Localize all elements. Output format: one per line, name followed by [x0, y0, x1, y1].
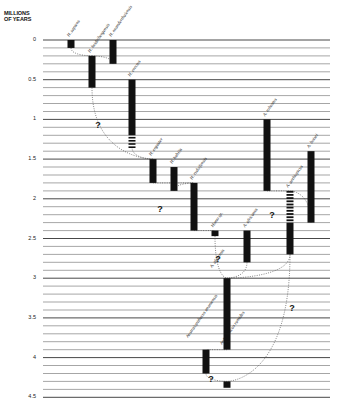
- species-bar-erectus: [129, 80, 136, 148]
- question-mark: ?: [208, 374, 214, 384]
- species-label-boisei: A. boisei: [305, 132, 319, 149]
- species-label-ramidus: Ardipithecus ramidus: [218, 310, 245, 346]
- species-bar-anamensis: [203, 350, 210, 374]
- species-bar-rudolfensis: [191, 183, 198, 231]
- species-label-habilis: H. habilis: [168, 147, 183, 166]
- question-mark: ?: [289, 303, 295, 313]
- tick-label: 2: [16, 195, 36, 201]
- species-bar-boisei: [308, 151, 315, 222]
- species-label-ergaster: H. ergaster: [147, 137, 164, 158]
- species-bar-homo-sp: [212, 231, 219, 237]
- species-label-africanus: A. africanus: [241, 207, 259, 229]
- tick-label: 1: [16, 115, 36, 121]
- question-mark: ?: [95, 120, 101, 130]
- axis-title-line2: OF YEARS: [4, 16, 31, 22]
- axis-title: MILLIONS OF YEARS: [4, 10, 31, 22]
- species-label-heidelbergensis: H. heidelbergensis: [86, 22, 110, 54]
- species-bar-ergaster: [150, 159, 157, 183]
- species-bar-sapiens: [68, 40, 75, 48]
- species-bar-habilis: [171, 167, 178, 191]
- species-label-homo-sp: Homo sp.: [209, 211, 224, 229]
- tick-label: 4: [16, 354, 36, 360]
- question-mark: ?: [269, 210, 275, 220]
- species-label-aethiopicus: A. aethiopicus: [284, 164, 304, 189]
- lineage-link: [227, 254, 290, 278]
- tick-label: 3.5: [16, 314, 36, 320]
- lineage-link: [92, 88, 153, 159]
- species-label-sapiens: H. sapiens: [65, 19, 81, 39]
- species-bar-robustus: [264, 119, 271, 190]
- tick-label: 0: [16, 36, 36, 42]
- species-bar-neanderthalensis: [110, 40, 117, 64]
- diagram-canvas: H. sapiensH. heidelbergensisH. neanderth…: [0, 0, 341, 414]
- species-label-anamensis: Australopithecus anamensis: [184, 293, 218, 339]
- species-label-erectus: H. erectus: [126, 59, 142, 78]
- species-labels: H. sapiensH. heidelbergensisH. neanderth…: [65, 4, 319, 346]
- species-label-neanderthalensis: H. neanderthalensis: [107, 4, 133, 38]
- tick-label: 4.5: [16, 393, 36, 399]
- species-bar-ramidus: [224, 381, 231, 387]
- tick-label: 2.5: [16, 235, 36, 241]
- tick-label: 0.5: [16, 76, 36, 82]
- hominid-phylogeny-diagram: H. sapiensH. heidelbergensisH. neanderth…: [0, 0, 341, 414]
- species-bar-heidelbergensis: [89, 56, 96, 88]
- question-mark: ?: [157, 204, 163, 214]
- species-bar-aethiopicus: [287, 191, 294, 254]
- tick-label: 1.5: [16, 155, 36, 161]
- species-label-robustus: A. robustus: [261, 97, 278, 118]
- species-ranges: [68, 40, 315, 388]
- question-mark: ?: [215, 254, 221, 264]
- time-grid: [43, 40, 330, 397]
- species-label-rudolfensis: H. rudolfensis: [188, 156, 208, 181]
- tick-label: 3: [16, 274, 36, 280]
- species-bar-africanus: [244, 231, 251, 263]
